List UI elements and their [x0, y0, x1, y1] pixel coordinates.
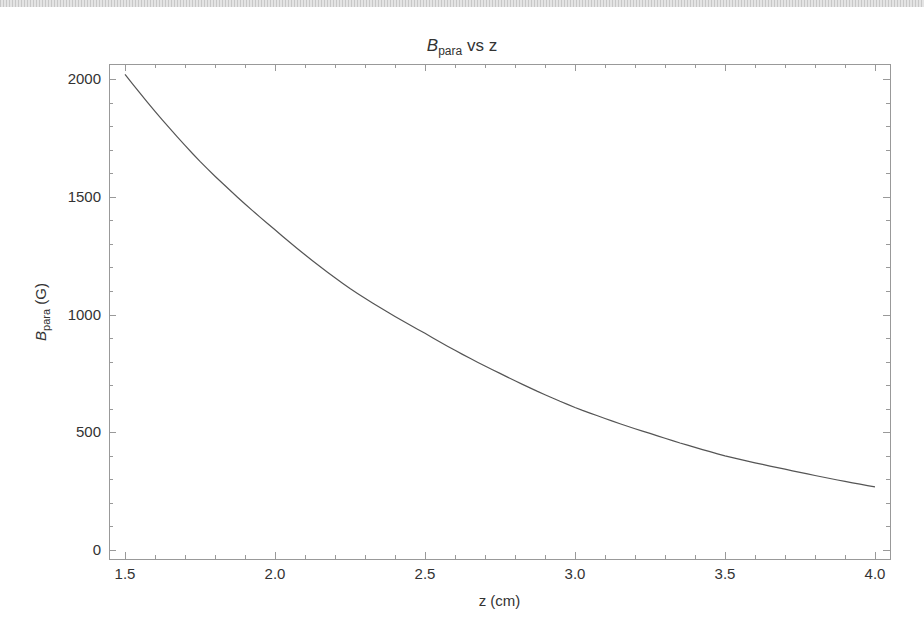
series-line — [125, 74, 875, 487]
y-tick-label: 1000 — [49, 306, 101, 323]
y-tick-label: 0 — [49, 541, 101, 558]
plot-frame — [110, 65, 891, 560]
x-axis-label: z (cm) — [109, 592, 890, 609]
ylabel-subscript: para — [40, 309, 52, 331]
x-tick-label: 4.0 — [861, 565, 889, 582]
plot-frame-rect — [110, 65, 891, 560]
plot-area — [0, 0, 924, 641]
ylabel-rest: (G) — [32, 283, 49, 309]
ylabel-symbol: B — [32, 331, 49, 341]
y-tick-label: 2000 — [49, 70, 101, 87]
y-tick-label: 1500 — [49, 188, 101, 205]
x-tick-label: 1.5 — [111, 565, 139, 582]
x-tick-label: 2.5 — [411, 565, 439, 582]
axis-ticks — [109, 64, 890, 559]
y-axis-label: Bpara (G) — [32, 283, 52, 341]
y-tick-label: 500 — [49, 423, 101, 440]
data-series — [125, 74, 875, 487]
x-tick-label: 3.0 — [561, 565, 589, 582]
x-tick-label: 2.0 — [261, 565, 289, 582]
x-tick-label: 3.5 — [711, 565, 739, 582]
